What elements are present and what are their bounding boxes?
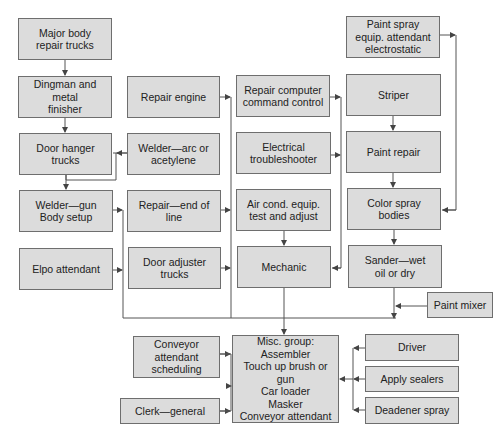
- node-paint-mixer: Paint mixer: [427, 292, 493, 318]
- node-conveyor-attendant-scheduling: Conveyor attendant scheduling: [133, 336, 220, 378]
- node-repair-computer: Repair computer command control: [236, 75, 330, 117]
- node-door-adjuster-trucks: Door adjuster trucks: [128, 247, 221, 289]
- node-clerk-general: Clerk—general: [120, 398, 220, 424]
- node-apply-sealers: Apply sealers: [365, 366, 459, 392]
- node-elpo-attendant: Elpo attendant: [19, 248, 113, 290]
- node-deadener-spray: Deadener spray: [365, 397, 459, 424]
- node-repair-end-of-line: Repair—end of line: [127, 190, 221, 232]
- node-air-cond: Air cond. equip. test and adjust: [236, 189, 331, 231]
- node-repair-engine: Repair engine: [127, 76, 220, 118]
- node-major-body-repair-trucks: Major body repair trucks: [18, 18, 112, 60]
- node-welder-gun: Welder—gun Body setup: [19, 190, 113, 232]
- node-color-spray: Color spray bodies: [347, 188, 441, 230]
- node-driver: Driver: [365, 334, 459, 361]
- node-paint-repair: Paint repair: [346, 131, 441, 173]
- node-dingman-metal-finisher: Dingman and metal finisher: [18, 76, 112, 118]
- node-misc-group: Misc. group: Assembler Touch up brush or…: [232, 335, 339, 423]
- node-welder-arc: Welder—arc or acetylene: [127, 133, 220, 175]
- node-mechanic: Mechanic: [237, 246, 331, 288]
- node-door-hanger-trucks: Door hanger trucks: [19, 133, 112, 175]
- node-sander: Sander—wet oil or dry: [348, 245, 442, 288]
- node-paint-spray: Paint spray equip. attendant electrostat…: [346, 16, 440, 58]
- node-striper: Striper: [346, 74, 441, 116]
- node-electrical-troubleshooter: Electrical troubleshooter: [236, 132, 331, 174]
